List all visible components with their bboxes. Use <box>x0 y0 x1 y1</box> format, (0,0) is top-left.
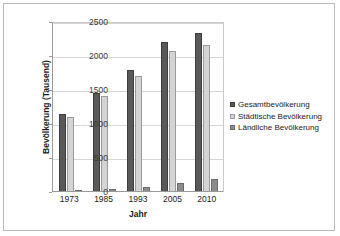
legend-item[interactable]: Ländliche Bevölkerung <box>230 123 334 132</box>
bars-layer <box>53 23 223 192</box>
bar-group <box>87 23 121 192</box>
legend-swatch-icon <box>230 102 235 107</box>
y-axis-tick-mark <box>49 22 52 23</box>
bar-group <box>121 23 155 192</box>
bar-group <box>155 23 189 192</box>
bar[interactable] <box>93 93 100 192</box>
legend-item[interactable]: Gesamtbevölkerung <box>230 100 334 109</box>
bar-group <box>189 23 223 192</box>
y-axis-tick-label: 1500 <box>68 85 108 95</box>
legend-swatch-icon <box>230 114 235 119</box>
chart-legend: GesamtbevölkerungStädtische BevölkerungL… <box>230 100 334 135</box>
y-axis-tick-label: 2000 <box>68 51 108 61</box>
y-axis-tick-mark <box>49 192 52 193</box>
x-axis-tick-label: 1993 <box>121 194 155 208</box>
bar[interactable] <box>169 51 176 192</box>
x-axis-tick-labels: 19731985199320052010 <box>52 194 224 208</box>
x-axis-tick-label: 2005 <box>155 194 189 208</box>
bar[interactable] <box>203 45 210 192</box>
legend-item[interactable]: Städtische Bevölkerung <box>230 112 334 121</box>
legend-swatch-icon <box>230 125 235 130</box>
y-axis-tick-label: 2500 <box>68 17 108 27</box>
x-axis-title: Jahr <box>52 209 224 219</box>
legend-item-label: Ländliche Bevölkerung <box>238 123 319 132</box>
bar-group <box>53 23 87 192</box>
plot-area <box>52 22 224 192</box>
y-axis-tick-label: 1000 <box>68 119 108 129</box>
bar[interactable] <box>127 70 134 192</box>
x-axis-tick-label: 2010 <box>190 194 224 208</box>
bar[interactable] <box>101 96 108 192</box>
bar[interactable] <box>195 33 202 192</box>
bar[interactable] <box>161 42 168 192</box>
y-axis-title: Bevölkerung (Tausend) <box>41 27 51 187</box>
bar[interactable] <box>59 114 66 192</box>
x-axis-tick-label: 1973 <box>52 194 86 208</box>
y-axis-title-wrap: Bevölkerung (Tausend) <box>14 22 28 192</box>
legend-item-label: Gesamtbevölkerung <box>238 100 310 109</box>
x-axis-tick-label: 1985 <box>86 194 120 208</box>
chart-frame: 05001000150020002500 Bevölkerung (Tausen… <box>3 3 335 231</box>
y-axis-tick-label: 500 <box>68 153 108 163</box>
bar[interactable] <box>135 76 142 192</box>
legend-item-label: Städtische Bevölkerung <box>238 112 322 121</box>
